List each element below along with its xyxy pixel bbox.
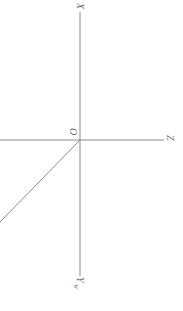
svg-text:W: W [73,284,79,290]
projection-diagram: X O Z Y W [0,0,183,311]
label-x: X [75,2,86,10]
label-z: Z [165,135,176,141]
axis-diagonal [0,140,80,222]
label-origin: O [68,128,79,135]
label-yw: Y W [73,277,86,290]
svg-text:Y: Y [75,277,86,284]
